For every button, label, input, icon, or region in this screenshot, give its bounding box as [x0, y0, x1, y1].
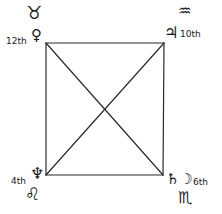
house-4-label: 4th [11, 177, 26, 186]
jupiter-icon: ♃ [164, 25, 178, 41]
scorpio-icon: ♏ [178, 190, 192, 206]
leo-icon: ♌ [25, 186, 40, 203]
saturn-moon-icon: ♄☽ [166, 172, 193, 187]
venus-icon: ♀ [31, 28, 42, 43]
aquarius-icon: ♒ [178, 4, 191, 19]
taurus-icon: ♉ [26, 4, 42, 22]
house-6-label: 6th [193, 178, 208, 187]
house-12-label: 12th [6, 37, 27, 46]
right-edge [163, 43, 164, 175]
house-10-label: 10th [180, 30, 201, 39]
neptune-icon: ♆ [30, 166, 44, 182]
